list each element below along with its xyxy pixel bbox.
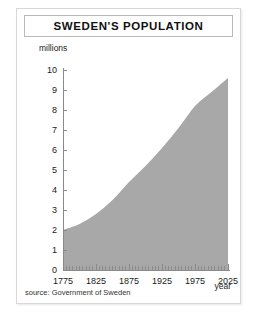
y-tick-labels: 012345678910 [47, 65, 57, 275]
x-tick-label: 1975 [185, 276, 205, 286]
y-tick-label: 3 [52, 205, 57, 215]
chart-figure: SWEDEN'S POPULATION millions 17751825187… [16, 8, 241, 304]
y-tick-label: 9 [52, 85, 57, 95]
y-tick-label: 8 [52, 105, 57, 115]
y-tick-label: 10 [47, 65, 57, 75]
x-tick-labels: 177518251875192519752025 [53, 276, 238, 286]
area-fill [63, 78, 228, 270]
plot-area: 177518251875192519752025 012345678910 [17, 9, 242, 305]
area-series [63, 78, 228, 270]
y-tick-label: 2 [52, 225, 57, 235]
y-tick-label: 7 [52, 125, 57, 135]
y-tick-label: 1 [52, 245, 57, 255]
y-tick-label: 0 [52, 265, 57, 275]
x-tick-label: 1875 [119, 276, 139, 286]
y-tick-label: 4 [52, 185, 57, 195]
x-tick-label: 1775 [53, 276, 73, 286]
area-chart-svg: 177518251875192519752025 012345678910 [17, 9, 242, 305]
source-note: source: Government of Sweden [25, 288, 130, 297]
y-tick-label: 6 [52, 145, 57, 155]
x-tick-label: 1925 [152, 276, 172, 286]
y-tick-label: 5 [52, 165, 57, 175]
x-axis-label: year [214, 281, 231, 291]
x-tick-label: 1825 [86, 276, 106, 286]
